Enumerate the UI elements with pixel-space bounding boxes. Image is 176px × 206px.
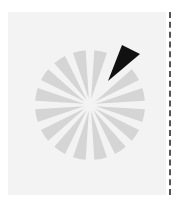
loading-spinner-icon <box>0 0 176 206</box>
spinner-segment <box>91 50 107 99</box>
spinner-segments <box>35 50 145 160</box>
